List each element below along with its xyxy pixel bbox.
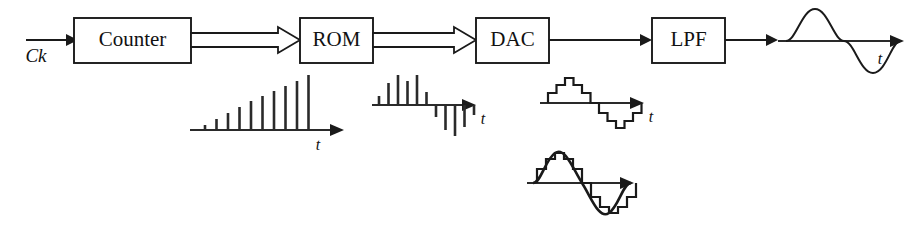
dac-output-staircase: t: [540, 78, 654, 128]
block-dac[interactable]: DAC: [476, 18, 549, 63]
dds-block-diagram: Ck Counter ROM DAC: [0, 0, 914, 227]
counter-waveform-axis-label: t: [316, 136, 321, 153]
block-dac-label: DAC: [490, 27, 534, 51]
bus-rom-to-dac: [373, 27, 476, 53]
block-rom[interactable]: ROM: [300, 18, 373, 63]
block-counter[interactable]: Counter: [74, 18, 191, 63]
bus-counter-to-rom: [191, 27, 300, 53]
block-lpf[interactable]: LPF: [652, 18, 725, 63]
block-counter-label: Counter: [99, 27, 167, 51]
counter-output-waveform: t: [190, 75, 344, 153]
arrow-lpf-to-output: [725, 34, 778, 46]
lpf-waveform-axis-label: t: [878, 50, 883, 67]
block-rom-label: ROM: [313, 27, 361, 51]
lpf-output-sine-waveform: t: [778, 9, 904, 73]
rom-output-waveform: t: [372, 75, 486, 136]
dac-waveform-axis-label: t: [649, 108, 654, 125]
arrow-dac-to-lpf: [549, 34, 652, 46]
diagram-canvas: Ck Counter ROM DAC: [0, 0, 914, 227]
dac-output-smoothed-waveform: [527, 152, 636, 215]
rom-waveform-axis-label: t: [481, 110, 486, 127]
clock-input-label: Ck: [25, 45, 47, 66]
block-lpf-label: LPF: [670, 27, 706, 51]
